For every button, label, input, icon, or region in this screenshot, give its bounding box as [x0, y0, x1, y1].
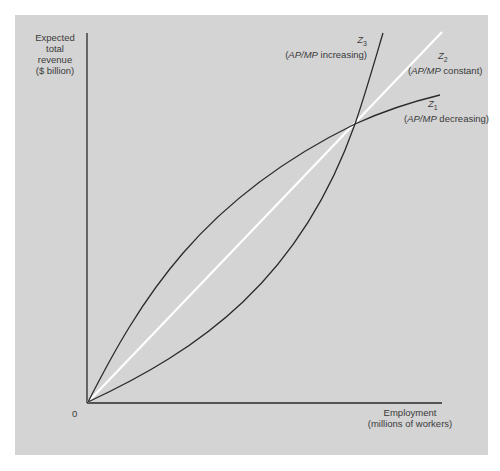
z2-label: Z2 (AP/MP constant)	[408, 50, 490, 76]
origin-label: 0	[72, 408, 77, 419]
y-axis-label: Expected total revenue ($ billion)	[30, 32, 80, 76]
z3-label: Z3 (AP/MP increasing)	[285, 34, 367, 60]
curve-z3	[88, 33, 383, 402]
z1-label: Z1 (AP/MP decreasing)	[404, 98, 494, 124]
curve-z1	[88, 95, 440, 402]
x-axis-label: Employment (millions of workers)	[355, 407, 465, 429]
curve-z2	[88, 32, 442, 402]
